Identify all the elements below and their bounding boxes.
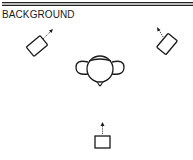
left-speaker-icon [26, 29, 53, 56]
rear-speaker-icon [95, 122, 110, 148]
speaker-layout-diagram [0, 0, 193, 160]
listener-head-icon [76, 56, 124, 86]
right-speaker-icon [157, 27, 178, 55]
